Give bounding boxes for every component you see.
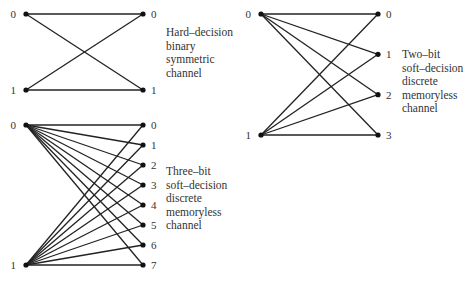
edge-1-to-3 [26,185,143,265]
caption-line: Three–bit [166,165,212,177]
output-label: 1 [386,48,392,60]
channel-diagrams: 0101Hard–decisionbinarysymmetricchannel0… [0,0,472,284]
output-label: 5 [151,219,157,231]
output-label: 1 [151,139,157,151]
edge-1-to-6 [26,245,143,265]
edge-0-to-6 [26,125,143,245]
edge-1-to-1 [26,145,143,265]
caption-line: channel [402,102,438,114]
output-node-1 [140,87,145,92]
output-label: 0 [151,119,157,131]
output-node-6 [140,242,145,247]
caption-line: channel [166,219,202,231]
output-node-7 [140,262,145,267]
caption-line: channel [166,67,202,79]
output-node-4 [140,202,145,207]
output-node-2 [375,92,380,97]
caption-line: memoryless [166,206,222,219]
input-label: 1 [11,259,17,271]
output-node-1 [375,52,380,57]
edge-1-to-2 [26,165,143,265]
edge-0-to-4 [26,125,143,205]
caption-line: soft–decision [166,179,228,191]
diagram-hard: 0101Hard–decisionbinarysymmetricchannel [11,8,234,96]
caption-line: Hard–decision [166,26,233,38]
edge-1-to-4 [26,205,143,265]
diagram-two-bit: 010123Two–bitsoft–decisiondiscretememory… [246,8,464,141]
input-node-1 [258,132,263,137]
input-node-1 [23,262,28,267]
output-node-0 [140,122,145,127]
edge-0-to-3 [26,125,143,185]
input-label: 0 [11,119,17,131]
output-label: 0 [386,8,392,20]
output-node-3 [140,182,145,187]
output-node-3 [375,132,380,137]
output-label: 3 [386,129,392,141]
caption-line: discrete [402,75,438,87]
caption-line: discrete [166,192,202,204]
caption-line: symmetric [166,53,215,66]
output-label: 2 [151,159,157,171]
output-node-2 [140,162,145,167]
diagram-three-bit: 0101234567Three–bitsoft–decisiondiscrete… [11,119,228,271]
input-node-1 [23,87,28,92]
output-label: 6 [151,239,157,251]
output-node-5 [140,222,145,227]
edge-1-to-1 [261,54,378,135]
output-label: 3 [151,179,157,191]
input-label: 1 [11,84,17,96]
input-label: 0 [11,8,17,20]
output-label: 0 [151,8,157,20]
caption-line: Two–bit [402,48,441,60]
output-label: 2 [386,89,392,101]
input-node-0 [258,11,263,16]
input-node-0 [23,11,28,16]
output-node-1 [140,142,145,147]
input-node-0 [23,122,28,127]
input-label: 0 [246,8,252,20]
caption-line: binary [166,40,196,53]
edge-0-to-1 [26,125,143,145]
edge-0-to-5 [26,125,143,225]
edge-0-to-2 [261,14,378,95]
output-node-0 [140,11,145,16]
output-label: 4 [151,199,157,211]
output-label: 1 [151,84,157,96]
caption-line: memoryless [402,89,458,102]
edge-1-to-2 [261,95,378,135]
caption-line: soft–decision [402,62,464,74]
output-label: 7 [151,259,157,271]
input-label: 1 [246,129,252,141]
output-node-0 [375,11,380,16]
edge-0-to-1 [261,14,378,54]
